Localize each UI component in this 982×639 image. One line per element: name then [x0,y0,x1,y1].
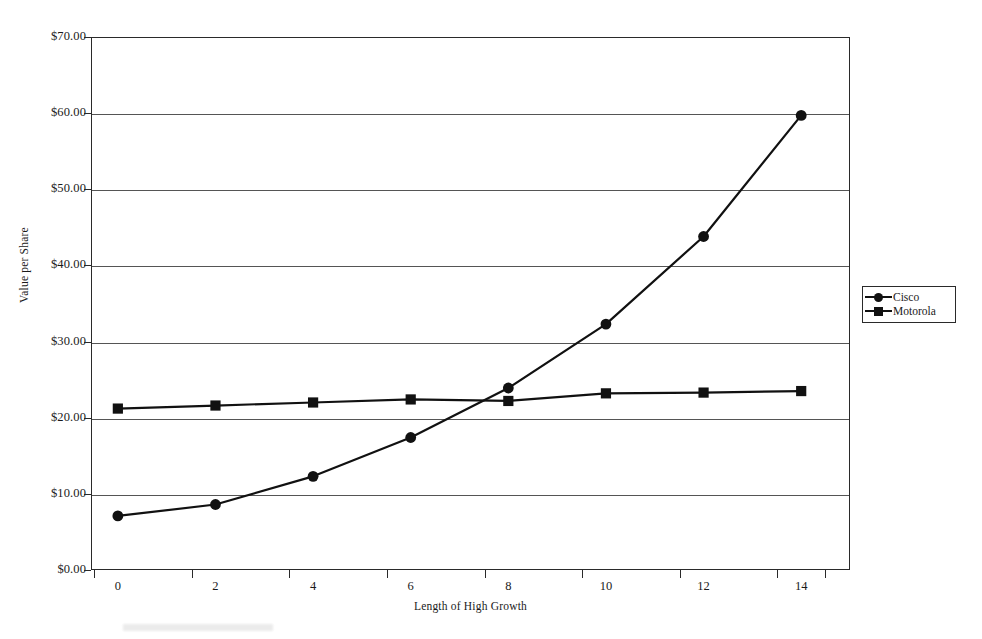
x-axis-tick-label: 4 [283,579,343,593]
y-axis-tick-label: $10.00 [2,487,86,500]
x-axis-tick-mark [582,570,583,578]
legend-label-motorola: Motorola [892,305,936,317]
y-axis-tick-mark [84,113,91,114]
x-axis-tick-mark [289,570,290,578]
y-axis-tick-mark [84,494,91,495]
gridline [92,495,849,496]
x-axis-tick-label: 14 [771,579,831,593]
y-axis-tick-mark [84,342,91,343]
scan-artifact [123,624,273,631]
x-axis-title: Length of High Growth [91,600,850,612]
gridline [92,266,849,267]
y-axis-tick-labels: $0.00$10.00$20.00$30.00$40.00$50.00$60.0… [0,0,86,639]
x-axis-tick-label: 12 [674,579,734,593]
y-axis-tick-mark [84,265,91,266]
circle-marker-icon [865,291,892,303]
y-axis-tick-label: $70.00 [2,30,86,43]
x-axis-tick-label: 10 [576,579,636,593]
y-axis-tick-label: $40.00 [2,258,86,271]
gridline [92,419,849,420]
gridline [92,190,849,191]
x-axis-tick-label: 6 [381,579,441,593]
square-marker-icon [865,305,892,317]
y-axis-tick-mark [84,570,91,571]
x-axis-tick-label: 0 [88,579,148,593]
legend-label-cisco: Cisco [892,291,919,303]
y-axis-tick-label: $30.00 [2,335,86,348]
x-axis-tick-label: 8 [478,579,538,593]
y-axis-tick-mark [84,418,91,419]
y-axis-tick-label: $0.00 [2,563,86,576]
x-axis-tick-mark [387,570,388,578]
x-axis-tick-label: 2 [185,579,245,593]
legend: Cisco Motorola [862,286,956,323]
y-axis-tick-mark [84,189,91,190]
legend-item-cisco: Cisco [865,290,952,304]
x-axis-tick-mark [825,570,826,578]
chart-figure: $0.00$10.00$20.00$30.00$40.00$50.00$60.0… [0,0,982,639]
legend-item-motorola: Motorola [865,304,952,318]
x-axis-tick-mark [680,570,681,578]
y-axis-title: Value per Share [18,227,30,303]
x-axis-tick-mark [777,570,778,578]
gridline [92,114,849,115]
y-axis-tick-label: $60.00 [2,106,86,119]
x-axis-tick-mark [192,570,193,578]
plot-area [91,37,850,570]
x-axis-tick-mark [485,570,486,578]
gridline [92,343,849,344]
y-axis-tick-mark [84,37,91,38]
x-axis-tick-mark [94,570,95,578]
y-axis-tick-label: $50.00 [2,182,86,195]
y-axis-tick-label: $20.00 [2,411,86,424]
